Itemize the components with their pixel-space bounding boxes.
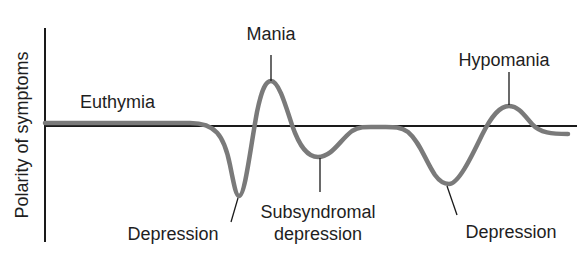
depression-1-label: Depression	[127, 224, 218, 244]
y-axis-label: Polarity of symptoms	[12, 51, 32, 218]
depression-1-leader-line	[231, 198, 238, 222]
mania-label: Mania	[246, 24, 296, 44]
subsyndromal-label-line2: depression	[274, 224, 362, 244]
hypomania-label: Hypomania	[458, 50, 550, 70]
mood-course-diagram: Polarity of symptoms Euthymia Mania Depr…	[0, 0, 585, 255]
subsyndromal-label-line1: Subsyndromal	[260, 202, 375, 222]
depression-2-label: Depression	[465, 222, 556, 242]
euthymia-label: Euthymia	[80, 92, 156, 112]
depression-2-leader-line	[447, 186, 457, 215]
